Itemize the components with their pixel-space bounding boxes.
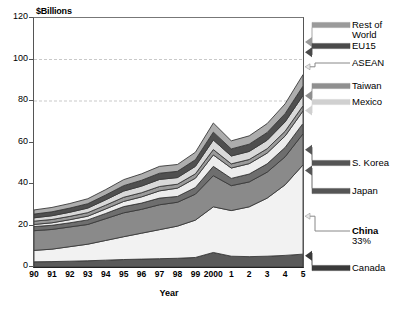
legend-label-text: Japan bbox=[352, 186, 378, 196]
chart-figure: $Billions 020406080100120 90919293949596… bbox=[0, 0, 396, 310]
legend-label-skorea: S. Korea bbox=[352, 158, 389, 168]
callout-arrow bbox=[305, 166, 350, 194]
legend-label-text: Canada bbox=[352, 263, 385, 273]
legend-label-text: S. Korea bbox=[352, 158, 389, 168]
legend-label-rest-of-world-l1: Rest ofWorld bbox=[352, 20, 382, 40]
legend-label-sub: World bbox=[352, 30, 382, 40]
callout-arrow bbox=[305, 63, 350, 70]
callout-arrow bbox=[305, 43, 350, 57]
callout-arrow bbox=[305, 83, 350, 100]
legend-label-eu15: EU15 bbox=[352, 41, 376, 51]
legend-label-asean: ASEAN bbox=[352, 58, 384, 68]
callout-arrows bbox=[0, 0, 396, 310]
legend-label-china: China33% bbox=[352, 226, 378, 246]
callout-arrow bbox=[305, 213, 350, 231]
callout-arrow bbox=[305, 145, 350, 166]
legend-label-mexico: Mexico bbox=[352, 97, 382, 107]
legend-label-text: Taiwan bbox=[352, 81, 382, 91]
legend-label-taiwan: Taiwan bbox=[352, 81, 382, 91]
legend-label-sub: 33% bbox=[352, 236, 378, 246]
legend-label-text: ASEAN bbox=[352, 58, 384, 68]
legend-label-text: EU15 bbox=[352, 41, 376, 51]
legend-label-canada: Canada bbox=[352, 263, 385, 273]
callout-arrow bbox=[305, 99, 350, 115]
callout-arrow bbox=[305, 251, 350, 271]
legend-label-japan: Japan bbox=[352, 186, 378, 196]
legend-label-text: Mexico bbox=[352, 97, 382, 107]
